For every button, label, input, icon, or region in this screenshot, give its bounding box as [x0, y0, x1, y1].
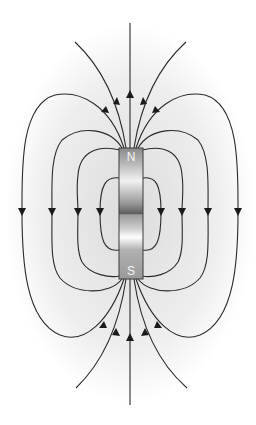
north-pole-label: N	[119, 150, 143, 164]
south-pole-label: S	[119, 264, 143, 278]
field-lines-svg	[0, 0, 256, 425]
magnet-field-diagram: N S	[0, 0, 256, 425]
bar-magnet	[119, 148, 143, 279]
